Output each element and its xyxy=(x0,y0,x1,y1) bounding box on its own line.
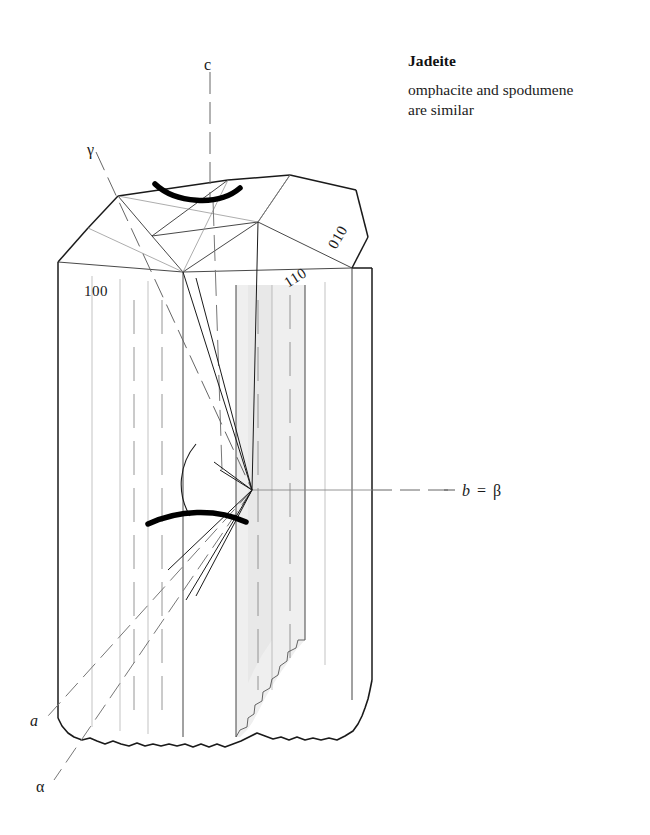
subtitle-line-1: omphacite and spodumene xyxy=(408,81,573,98)
terminal-face-construction-lines xyxy=(88,175,290,272)
axis-label-alpha: α xyxy=(36,778,45,795)
figure-caption-block: Jadeite omphacite and spodumene are simi… xyxy=(408,52,638,120)
shaded-cleavage-band xyxy=(236,285,305,737)
face-label-010: 010 xyxy=(325,223,351,252)
axis-label-b-beta: b=β xyxy=(462,482,501,500)
mineral-title: Jadeite xyxy=(408,52,638,69)
face-label-100: 100 xyxy=(84,283,108,299)
subtitle-line-2: are similar xyxy=(408,101,474,118)
mineral-subtitle: omphacite and spodumene are similar xyxy=(408,80,638,120)
axis-label-gamma: γ xyxy=(86,141,94,159)
jadeite-crystal-drawing: 100 110 010 c γ a α b=β xyxy=(0,0,650,835)
axis-label-equals: = xyxy=(477,482,486,499)
lower-extinction-arc xyxy=(148,512,246,524)
c-axis-line-inner xyxy=(213,200,222,470)
axis-label-b-italic: b xyxy=(462,482,470,499)
axis-label-beta: β xyxy=(493,482,501,500)
upper-extinction-arc xyxy=(155,184,240,200)
terminal-face-edges xyxy=(58,175,352,272)
crystal-diagram-figure: Jadeite omphacite and spodumene are simi… xyxy=(0,0,650,835)
axis-label-a: a xyxy=(30,712,38,729)
axis-label-c: c xyxy=(204,56,211,73)
broken-base xyxy=(58,680,372,747)
gamma-axis-line xyxy=(96,152,252,490)
alpha-axis-line xyxy=(54,490,252,780)
